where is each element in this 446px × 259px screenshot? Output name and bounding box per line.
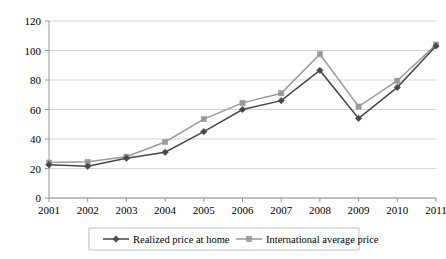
x-tick-label-2001: 2001 [38,204,60,216]
y-tick-label-0: 0 [36,192,42,204]
y-tick-label-120: 120 [25,15,42,27]
x-tick-label-2002: 2002 [77,204,99,216]
y-tick-label-20: 20 [30,163,42,175]
legend: Realized price at homeInternational aver… [89,228,379,250]
x-tick-label-2007: 2007 [270,204,293,216]
x-tick-label-2005: 2005 [193,204,216,216]
x-tick-label-2008: 2008 [309,204,332,216]
x-tick-label-2006: 2006 [232,204,255,216]
y-tick-label-80: 80 [30,74,42,86]
x-tick-label-2003: 2003 [115,204,138,216]
x-tick-labels: 2001200220032004200520062007200820092010… [38,204,446,216]
x-tick-label-2011: 2011 [425,204,446,216]
x-tick-label-2010: 2010 [386,204,409,216]
y-tick-label-60: 60 [30,104,42,116]
data-point-2-2009 [356,104,361,109]
y-axis [45,21,49,198]
data-point-2-2004 [163,139,168,144]
data-point-2-2005 [201,116,206,121]
x-tick-label-2009: 2009 [348,204,371,216]
y-tick-labels: 020406080100120 [25,15,42,204]
line-chart: 020406080100120 200120022003200420052006… [0,0,446,259]
x-axis [49,198,436,202]
legend-label-1: Realized price at home [133,234,230,245]
legend-label-2: International average price [266,234,379,245]
y-tick-label-100: 100 [25,45,42,57]
data-point-2-2008 [317,52,322,57]
data-point-2-2006 [240,100,245,105]
chart-canvas: 020406080100120 200120022003200420052006… [0,0,446,259]
legend-marker-2 [246,236,251,241]
data-point-2-2010 [395,78,400,83]
x-tick-label-2004: 2004 [154,204,177,216]
data-point-2-2007 [279,91,284,96]
y-tick-label-40: 40 [30,133,42,145]
